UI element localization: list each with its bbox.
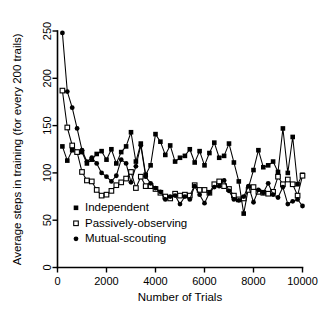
data-point	[271, 159, 276, 164]
data-point	[94, 161, 99, 166]
data-point	[153, 132, 158, 137]
data-point	[276, 195, 281, 200]
data-point	[261, 165, 266, 170]
data-point	[104, 192, 109, 197]
y-tick-label-250: 250	[41, 22, 53, 40]
data-point	[212, 140, 217, 145]
data-point	[94, 188, 99, 193]
legend-label: Passively-observing	[85, 217, 187, 229]
data-point	[85, 159, 90, 164]
data-point	[148, 181, 153, 186]
data-point	[227, 188, 232, 193]
x-tick-label-6000: 6000	[192, 275, 216, 287]
data-point	[158, 189, 163, 194]
data-point	[300, 173, 305, 178]
data-point	[188, 147, 193, 152]
data-point	[143, 174, 148, 179]
data-point	[276, 174, 281, 179]
data-point	[99, 149, 104, 154]
chart-series	[60, 30, 305, 215]
data-point	[153, 186, 158, 191]
legend-label: Independent	[85, 201, 150, 213]
data-point	[75, 150, 80, 155]
data-point	[251, 200, 256, 205]
data-point	[192, 160, 197, 165]
data-point	[266, 191, 271, 196]
legend-marker-filled-square-icon	[74, 206, 79, 211]
data-point	[178, 202, 183, 207]
data-point	[261, 190, 266, 195]
data-point	[99, 193, 104, 198]
data-point	[295, 197, 300, 202]
data-point	[148, 163, 153, 168]
data-point	[197, 149, 202, 154]
data-point	[114, 183, 119, 188]
data-point	[202, 201, 207, 206]
data-point	[217, 155, 222, 160]
data-point	[158, 139, 163, 144]
data-point	[276, 170, 281, 175]
data-point	[237, 179, 242, 184]
data-point	[124, 161, 129, 166]
legend-item-mutual-scouting: Mutual-scouting	[74, 232, 167, 244]
data-point	[70, 105, 75, 110]
data-point	[178, 155, 183, 160]
x-tick-label-10000: 10000	[287, 275, 318, 287]
x-tick-label-0: 0	[54, 275, 60, 287]
data-point	[241, 211, 246, 216]
data-point	[183, 194, 188, 199]
y-tick-label-50: 50	[41, 214, 53, 226]
data-point	[85, 178, 90, 183]
data-point	[290, 182, 295, 187]
data-point	[290, 199, 295, 204]
data-point	[65, 158, 70, 163]
data-point	[129, 180, 134, 185]
data-point	[70, 143, 75, 148]
data-point	[281, 185, 286, 190]
data-point	[192, 184, 197, 189]
y-tick-label-200: 200	[41, 69, 53, 87]
data-point	[89, 155, 94, 160]
data-point	[134, 164, 139, 169]
data-point	[207, 190, 212, 195]
data-point	[168, 143, 173, 148]
data-point	[241, 194, 246, 199]
chart-legend: IndependentPassively-observingMutual-sco…	[74, 201, 188, 244]
data-point	[251, 168, 256, 173]
data-point	[163, 197, 168, 202]
chart-figure: 0501001502002500200040006000800010000 In…	[0, 0, 333, 327]
data-point	[75, 126, 80, 131]
data-point	[222, 154, 227, 159]
data-point	[222, 178, 227, 183]
data-point	[246, 184, 251, 189]
data-point	[129, 170, 134, 175]
x-axis-title: Number of Trials	[138, 291, 223, 303]
data-point	[99, 171, 104, 176]
data-point	[207, 151, 212, 156]
data-point	[212, 185, 217, 190]
data-point	[114, 173, 119, 178]
data-point	[109, 147, 114, 152]
data-point	[183, 154, 188, 159]
data-point	[80, 148, 85, 153]
data-point	[90, 179, 95, 184]
data-point	[286, 171, 291, 176]
data-point	[124, 176, 129, 181]
x-tick-label-2000: 2000	[94, 275, 118, 287]
legend-item-passively-observing: Passively-observing	[74, 217, 188, 229]
data-point	[109, 179, 114, 184]
data-point	[104, 157, 109, 162]
x-tick-label-8000: 8000	[241, 275, 265, 287]
data-point	[266, 163, 271, 168]
x-tick-label-4000: 4000	[143, 275, 167, 287]
data-point	[281, 126, 286, 131]
data-point	[227, 141, 232, 146]
data-point	[217, 179, 222, 184]
data-point	[271, 192, 276, 197]
data-point	[119, 157, 124, 162]
series-line	[62, 33, 302, 206]
data-point	[60, 88, 65, 93]
legend-label: Mutual-scouting	[85, 232, 166, 244]
data-point	[139, 174, 144, 179]
data-point	[236, 198, 241, 203]
